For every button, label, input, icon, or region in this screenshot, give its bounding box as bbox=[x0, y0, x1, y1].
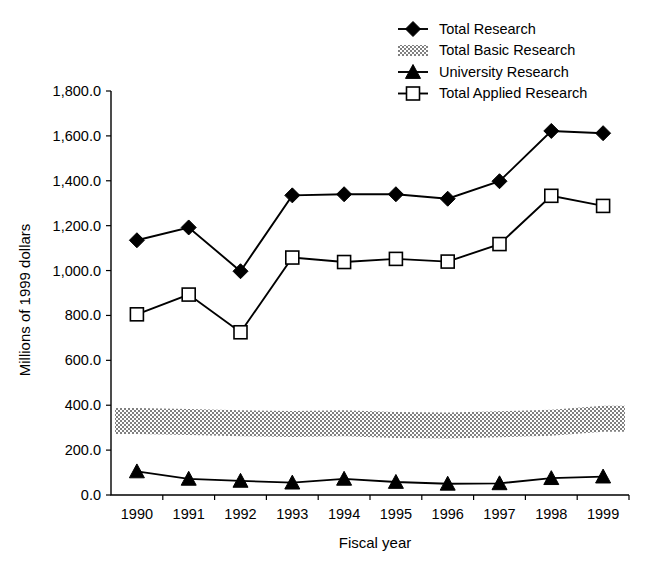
series-line bbox=[137, 471, 603, 483]
x-tick-label: 1999 bbox=[587, 506, 619, 522]
data-point-diamond bbox=[285, 188, 300, 203]
series-line bbox=[137, 131, 603, 271]
data-point-square bbox=[130, 308, 143, 321]
x-tick-label: 1998 bbox=[535, 506, 567, 522]
chart-figure: 0.0200.0400.0600.0800.01,000.01,200.01,4… bbox=[0, 0, 660, 567]
legend-label: Total Applied Research bbox=[439, 85, 587, 101]
data-point-square bbox=[493, 238, 506, 251]
x-axis-title: Fiscal year bbox=[339, 534, 412, 551]
figure-caption-strip bbox=[0, 555, 660, 567]
data-series-group bbox=[115, 123, 625, 490]
legend-label: Total Basic Research bbox=[439, 42, 575, 58]
x-axis: 1990199119921993199419951996199719981999 bbox=[121, 495, 629, 522]
series-total-applied-research bbox=[130, 189, 609, 338]
x-tick-label: 1996 bbox=[432, 506, 464, 522]
x-tick-label: 1997 bbox=[483, 506, 515, 522]
data-point-square bbox=[182, 288, 195, 301]
x-tick-label: 1994 bbox=[328, 506, 360, 522]
y-tick-label: 200.0 bbox=[65, 442, 101, 458]
data-point-square bbox=[338, 256, 351, 269]
legend-item: Total Basic Research bbox=[398, 42, 575, 58]
data-point-diamond bbox=[129, 233, 144, 248]
x-tick-label: 1993 bbox=[276, 506, 308, 522]
data-point-diamond bbox=[406, 22, 421, 37]
data-point-square bbox=[441, 255, 454, 268]
data-point-square bbox=[389, 252, 402, 265]
y-tick-label: 400.0 bbox=[65, 397, 101, 413]
data-point-diamond bbox=[388, 187, 403, 202]
x-tick-label: 1995 bbox=[380, 506, 412, 522]
series-line bbox=[137, 196, 603, 332]
legend-item: University Research bbox=[398, 64, 569, 80]
legend-label: University Research bbox=[439, 64, 569, 80]
y-axis: 0.0200.0400.0600.0800.01,000.01,200.01,4… bbox=[53, 83, 111, 503]
legend-label: Total Research bbox=[439, 21, 536, 37]
data-point-square bbox=[545, 189, 558, 202]
data-point-diamond bbox=[596, 126, 611, 141]
y-tick-label: 1,000.0 bbox=[53, 263, 101, 279]
data-point-triangle bbox=[129, 464, 144, 478]
data-point-square bbox=[597, 199, 610, 212]
y-tick-label: 0.0 bbox=[81, 487, 101, 503]
basic-research-band bbox=[115, 406, 625, 439]
y-tick-label: 1,200.0 bbox=[53, 218, 101, 234]
data-point-square bbox=[234, 326, 247, 339]
x-tick-label: 1990 bbox=[121, 506, 153, 522]
y-tick-label: 1,800.0 bbox=[53, 83, 101, 99]
legend-item: Total Research bbox=[398, 21, 536, 37]
data-point-diamond bbox=[337, 187, 352, 202]
data-point-square bbox=[286, 251, 299, 264]
legend-swatch-band bbox=[398, 45, 428, 56]
y-tick-label: 1,400.0 bbox=[53, 173, 101, 189]
line-chart: 0.0200.0400.0600.0800.01,000.01,200.01,4… bbox=[0, 0, 660, 567]
y-axis-title: Millions of 1999 dollars bbox=[16, 224, 33, 377]
series-total-research bbox=[129, 123, 610, 278]
y-tick-label: 1,600.0 bbox=[53, 128, 101, 144]
series-total-basic-research bbox=[115, 406, 625, 439]
data-point-square bbox=[407, 87, 420, 100]
legend-item: Total Applied Research bbox=[398, 85, 587, 101]
y-tick-label: 800.0 bbox=[65, 307, 101, 323]
y-tick-label: 600.0 bbox=[65, 352, 101, 368]
x-tick-label: 1991 bbox=[173, 506, 205, 522]
chart-legend: Total ResearchTotal Basic ResearchUniver… bbox=[398, 21, 587, 102]
data-point-diamond bbox=[440, 191, 455, 206]
x-tick-label: 1992 bbox=[224, 506, 256, 522]
series-university-research bbox=[129, 464, 610, 490]
